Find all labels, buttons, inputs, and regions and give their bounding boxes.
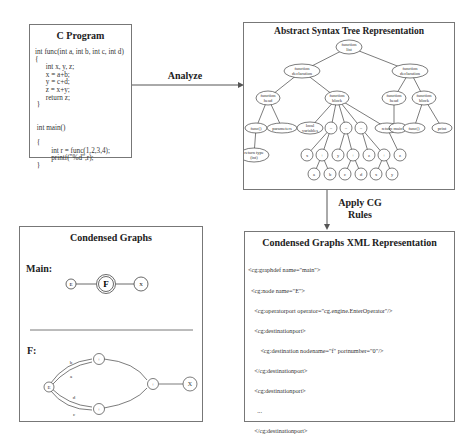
svg-text:declaration: declaration [292, 71, 313, 76]
ast-node-return: return [382, 126, 393, 131]
c-program-title: C Program [30, 30, 131, 41]
svg-text:head: head [264, 98, 273, 103]
ast-node-print: print [438, 126, 447, 131]
svg-text:a: a [313, 172, 315, 177]
svg-text:=: = [345, 126, 348, 131]
svg-text:head: head [390, 98, 399, 103]
svg-text:block: block [419, 98, 430, 103]
svg-text:declaration: declaration [400, 71, 421, 76]
ast-node-main: main [394, 126, 404, 131]
xml-panel: Condensed Graphs XML Representation <cg:… [244, 231, 455, 422]
svg-text:+: + [321, 153, 324, 158]
xml-code: <cg:graphdef name="main"> <cg:node name=… [248, 254, 393, 442]
svg-text:z: z [368, 153, 370, 158]
svg-text:+: + [383, 153, 386, 158]
main-graph: E F X E + + + X b a d [20, 227, 204, 423]
main-node-x: X [139, 282, 143, 287]
svg-text:=: = [360, 126, 363, 131]
ast-tree: function list function declaration funct… [244, 23, 456, 191]
analyze-label: Analyze [150, 70, 220, 81]
apply-cg-label-2: Rules [330, 209, 390, 220]
f-node-plus-bottom: + [98, 407, 101, 412]
f-node-x: X [188, 381, 193, 387]
analyze-arrow [132, 80, 244, 90]
f-node-plus-top: + [98, 357, 101, 362]
xml-title: Condensed Graphs XML Representation [245, 237, 454, 248]
c-program-panel: C Program int func(int a, int b, int c, … [29, 24, 132, 158]
main-node-f: F [103, 279, 109, 289]
ast-node-func-call: func() [409, 126, 420, 131]
ast-node-func: func() [251, 126, 262, 131]
svg-text:c: c [344, 172, 346, 177]
f-edge-d: d [73, 395, 76, 400]
ast-node-params: parameters [272, 126, 292, 131]
main-node-e: E [69, 282, 72, 287]
c-program-code: int func(int a, int b, int c, int d) { i… [35, 49, 124, 171]
f-label: F: [27, 345, 36, 356]
f-node-plus-right: + [152, 382, 155, 387]
condensed-graphs-panel: Condensed Graphs Main: E F X [19, 226, 203, 422]
svg-text:+: + [352, 153, 355, 158]
svg-text:z: z [399, 153, 401, 158]
svg-text:block: block [332, 98, 343, 103]
svg-text:list: list [346, 47, 352, 52]
svg-text:variables: variables [302, 128, 318, 133]
f-edge-c: c [73, 412, 76, 417]
ast-panel: Abstract Syntax Tree Representation [243, 22, 455, 190]
apply-cg-label-1: Apply CG [330, 197, 390, 208]
svg-text:=: = [330, 126, 333, 131]
f-node-e: E [47, 385, 50, 390]
svg-text:(int): (int) [250, 155, 258, 160]
f-edge-a: a [70, 374, 73, 379]
